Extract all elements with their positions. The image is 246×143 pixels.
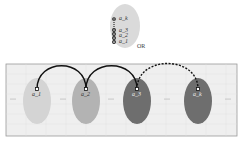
- diagram-canvas: [0, 0, 246, 143]
- stack-label-ak: a_k: [119, 15, 128, 21]
- or-label: OR: [137, 43, 145, 49]
- stack-label-a1: a_1: [119, 38, 128, 44]
- node-label-a2: a_2: [81, 91, 90, 97]
- node-label-a1: a_1: [32, 91, 41, 97]
- node-label-a3: a_3: [132, 91, 141, 97]
- node-label-ak: a_k: [193, 91, 202, 97]
